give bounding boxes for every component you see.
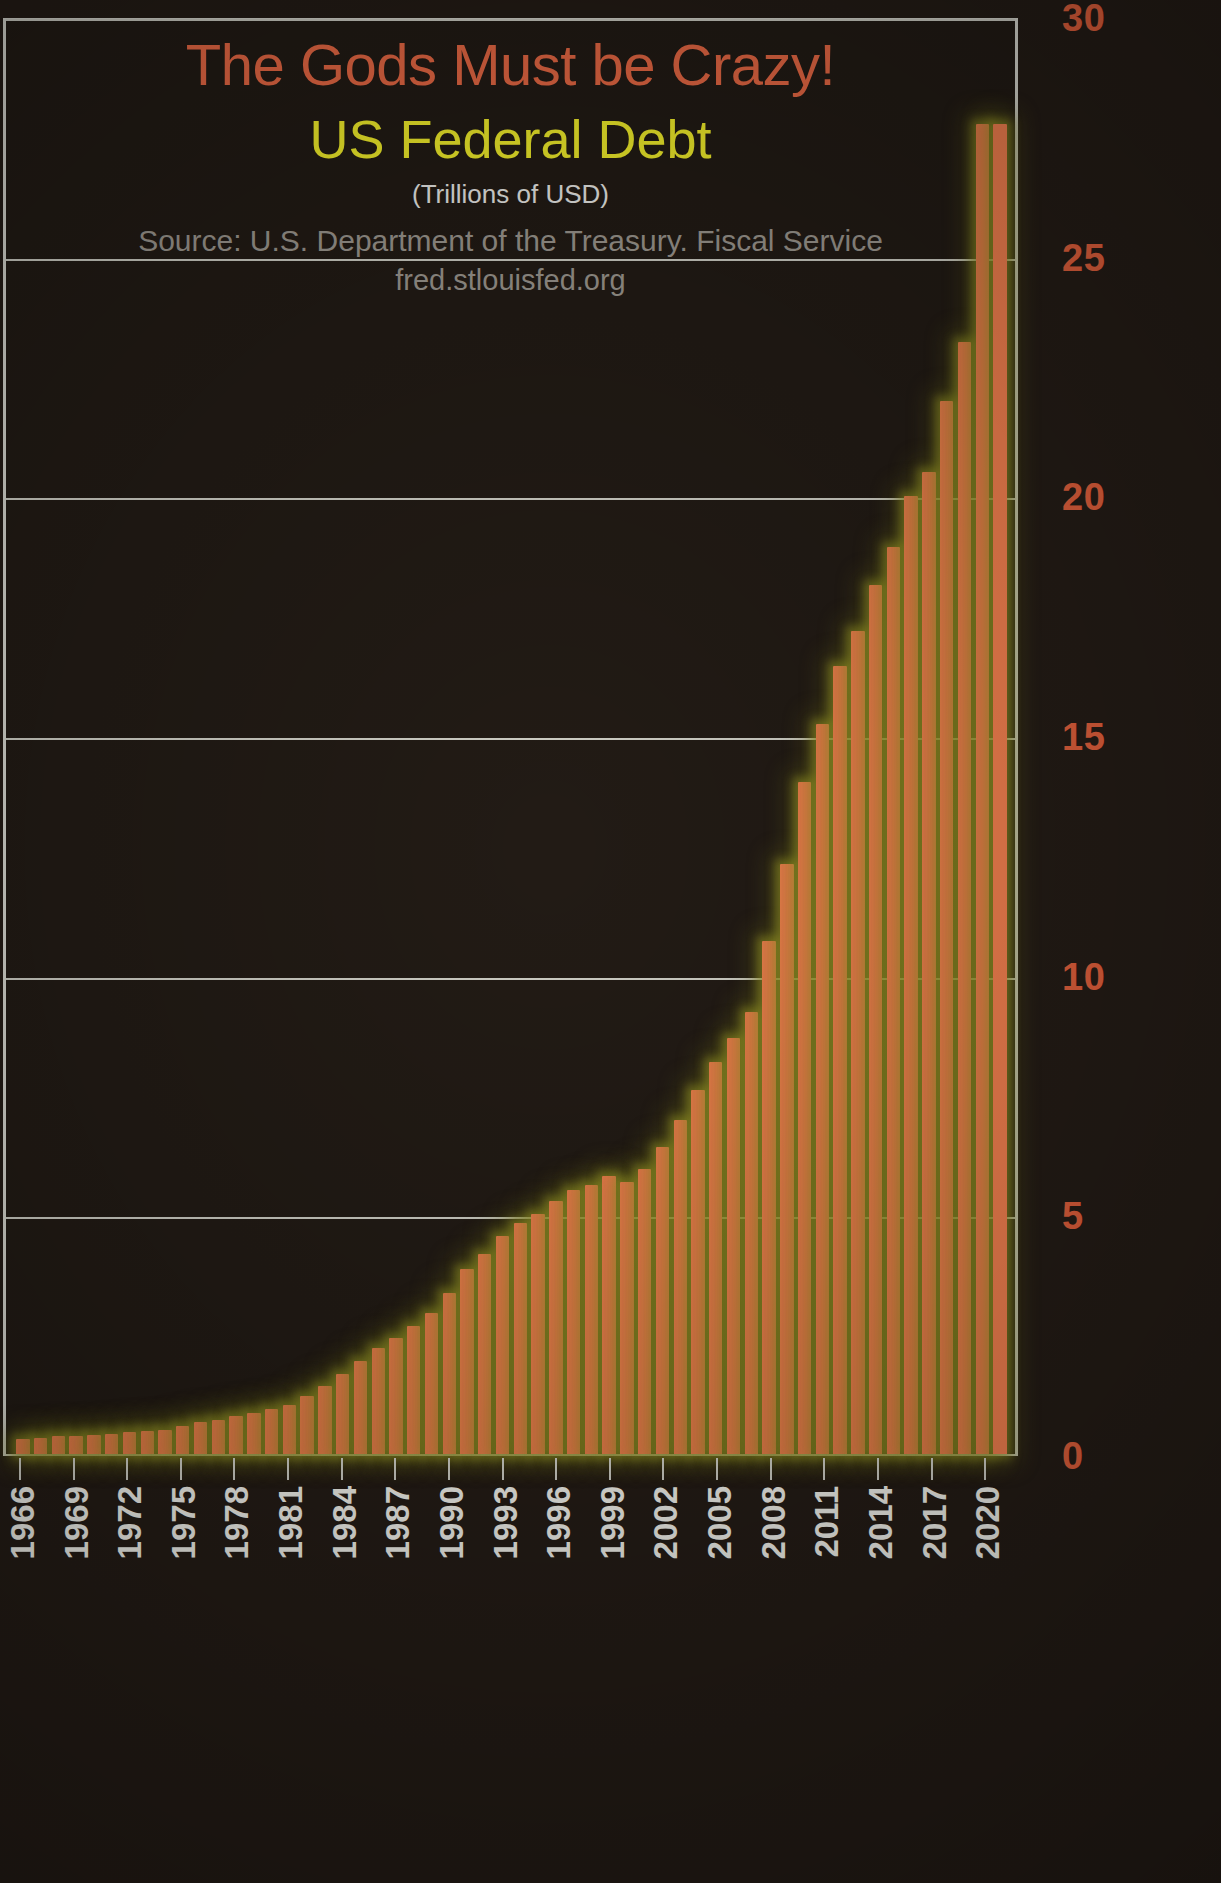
bar-2003 [674,1120,687,1454]
bar-1973 [141,1431,154,1454]
bar-2020 [976,124,989,1454]
x-axis-label-1999: 1999 [594,1486,632,1559]
x-axis-label-2020: 2020 [969,1486,1007,1559]
x-axis-tickmark-1975 [180,1458,182,1480]
bar-1969 [69,1436,82,1454]
y-axis-tick-25: 25 [1062,239,1105,277]
bar-2009 [780,864,793,1454]
bar-1989 [425,1313,438,1454]
x-axis-label-2008: 2008 [755,1486,793,1559]
x-axis-label-1978: 1978 [218,1486,256,1559]
x-axis-label-2014: 2014 [862,1486,900,1559]
bar-1986 [372,1348,385,1454]
x-axis-label-2002: 2002 [647,1486,685,1559]
bar-1987 [389,1338,402,1454]
x-axis-label-1996: 1996 [540,1486,578,1559]
bar-2010 [798,782,811,1455]
y-axis-tick-30: 30 [1062,0,1105,37]
bar-1990 [443,1293,456,1454]
x-axis-tickmark-1984 [341,1458,343,1480]
chart-page: The Gods Must be Crazy! US Federal Debt … [0,0,1221,1883]
x-axis-tickmark-1993 [502,1458,504,1480]
y-axis: 051015202530 [1022,0,1221,1883]
bar-2018 [940,401,953,1454]
bar-1982 [300,1396,313,1454]
x-axis-label-1990: 1990 [433,1486,471,1559]
x-axis-label-1975: 1975 [165,1486,203,1559]
bar-1970 [87,1435,100,1454]
x-axis-tickmark-1996 [555,1458,557,1480]
bar-2015 [887,547,900,1454]
x-axis-label-2005: 2005 [701,1486,739,1559]
bar-2005 [709,1062,722,1454]
bar-1996 [549,1201,562,1454]
x-axis-tickmark-2017 [931,1458,933,1480]
x-axis-tickmark-2014 [877,1458,879,1480]
bar-1976 [194,1422,207,1454]
x-axis-label-2011: 2011 [808,1486,846,1558]
x-axis-tickmark-1981 [287,1458,289,1480]
bar-1988 [407,1326,420,1454]
x-axis: 1966196919721975197819811984198719901993… [3,1458,1018,1883]
x-axis-tickmark-2005 [716,1458,718,1480]
y-axis-tick-10: 10 [1062,958,1105,996]
bar-1983 [318,1386,331,1454]
y-axis-tick-15: 15 [1062,718,1105,756]
bar-1995 [531,1214,544,1454]
bar-2014 [869,585,882,1455]
bar-1972 [123,1432,136,1454]
x-axis-tickmark-1987 [394,1458,396,1480]
bar-1999 [602,1176,615,1454]
x-axis-tickmark-1966 [19,1458,21,1480]
x-axis-label-1981: 1981 [272,1486,310,1559]
x-axis-tickmark-1978 [233,1458,235,1480]
x-axis-tickmark-1990 [448,1458,450,1480]
bar-1979 [247,1413,260,1454]
bar-2002 [656,1147,669,1454]
x-axis-label-2017: 2017 [916,1486,954,1559]
bar-2008 [762,941,775,1454]
bar-1992 [478,1254,491,1454]
bar-1974 [158,1430,171,1454]
bar-2012 [833,666,846,1454]
x-axis-label-1966: 1966 [4,1486,42,1559]
bar-1980 [265,1409,278,1454]
bar-1997 [567,1190,580,1454]
bar-2007 [745,1012,758,1454]
bar-2011 [816,724,829,1454]
bar-1971 [105,1434,118,1454]
bar-1984 [336,1374,349,1454]
bar-2006 [727,1038,740,1454]
bar-1978 [229,1416,242,1454]
bar-1985 [354,1361,367,1454]
plot-area [3,18,1018,1456]
bar-2021 [993,124,1006,1454]
bar-1977 [212,1420,225,1455]
bar-2019 [958,342,971,1454]
x-axis-tickmark-2008 [770,1458,772,1480]
bar-2016 [904,496,917,1454]
bar-1967 [34,1438,47,1454]
bar-2013 [851,631,864,1454]
x-axis-tickmark-2002 [662,1458,664,1480]
bar-1993 [496,1236,509,1454]
bar-2001 [638,1169,651,1454]
bar-1968 [52,1436,65,1454]
bar-1994 [514,1223,527,1454]
bar-1991 [460,1269,473,1455]
x-axis-tickmark-2020 [984,1458,986,1480]
y-axis-tick-0: 0 [1062,1437,1084,1475]
bar-series [6,20,1015,1454]
x-axis-label-1987: 1987 [379,1486,417,1559]
bar-1966 [16,1439,29,1454]
y-axis-tick-5: 5 [1062,1197,1084,1235]
x-axis-label-1969: 1969 [58,1486,96,1559]
x-axis-label-1984: 1984 [326,1486,364,1559]
bar-2004 [691,1090,704,1454]
bar-2017 [922,472,935,1454]
bar-2000 [620,1182,633,1454]
x-axis-label-1993: 1993 [487,1486,525,1559]
bar-1981 [283,1405,296,1454]
x-axis-tickmark-1969 [73,1458,75,1480]
y-axis-tick-20: 20 [1062,478,1105,516]
